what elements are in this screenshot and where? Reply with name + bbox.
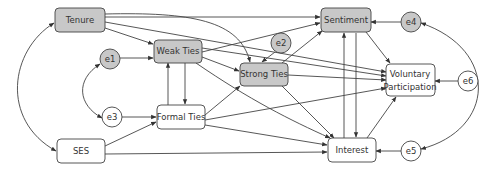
error-e2: e2 [271,33,291,53]
error-e4: e4 [401,12,421,32]
node-strong-ties: Strong Ties [240,63,288,86]
node-label: Sentiment [324,15,369,25]
cov-e1-e3 [83,64,102,118]
node-formal-ties: Formal Ties [157,105,206,129]
diagram-svg: Tenure Weak Ties Strong Ties Sentiment V… [0,0,487,174]
edge-sentiment-voluntary [366,32,390,63]
node-sentiment: Sentiment [321,8,371,32]
node-label-line1: Voluntary [390,69,431,79]
node-label: Tenure [65,15,94,25]
edge-weakties-voluntary [202,48,386,76]
error-e6: e6 [458,71,478,91]
edge-tenure-weakties [105,28,153,44]
node-label: SES [73,146,89,156]
node-label: Weak Ties [157,46,200,56]
edge-weakties-strongties [202,57,239,71]
node-label: Interest [336,145,369,155]
node-interest: Interest [328,138,376,162]
error-label: e2 [276,38,287,48]
node-voluntary-participation: Voluntary Participation [383,64,436,96]
error-label: e5 [406,146,417,156]
edge-ses-interest [105,152,327,154]
cov-tenure-ses [17,23,56,151]
node-label: Strong Ties [240,69,288,79]
node-label-line2: Participation [383,82,436,92]
error-e5: e5 [401,141,421,161]
edge-interest-voluntary [367,97,396,138]
error-e1: e1 [100,49,120,69]
error-label: e1 [105,54,116,64]
edge-strongties-interest [282,86,334,138]
error-label: e3 [107,112,118,122]
edge-strongties-voluntary [288,75,386,80]
edge-weakties-sentiment [202,23,320,52]
node-ses: SES [57,139,105,163]
error-e3: e3 [102,107,122,127]
path-diagram: Tenure Weak Ties Strong Ties Sentiment V… [0,0,487,174]
node-label: Formal Ties [157,112,206,122]
node-weak-ties: Weak Ties [154,40,202,63]
node-tenure: Tenure [55,8,105,32]
error-label: e6 [463,76,474,86]
edge-formalties-strongties [205,86,240,115]
error-label: e4 [406,17,417,27]
